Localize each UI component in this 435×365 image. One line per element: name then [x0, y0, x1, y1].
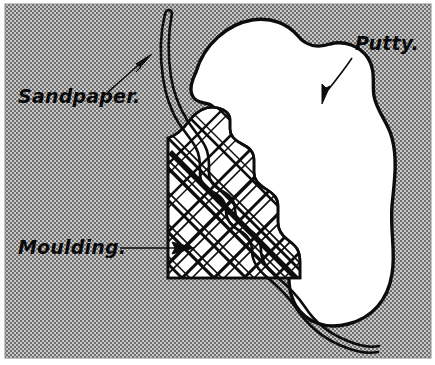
figure-root: Sandpaper. Putty. Moulding. [0, 0, 435, 365]
putty-label: Putty. [355, 32, 419, 54]
figure-svg: Sandpaper. Putty. Moulding. [0, 0, 435, 365]
moulding-label: Moulding. [18, 236, 126, 258]
sandpaper-label: Sandpaper. [18, 85, 140, 107]
